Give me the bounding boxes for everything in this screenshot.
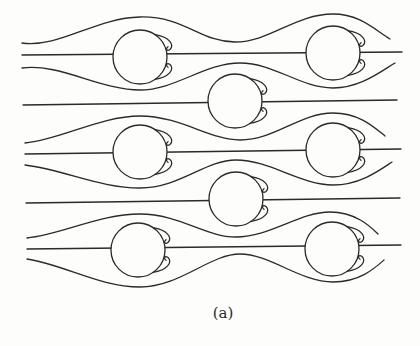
cylinder-c3 — [208, 74, 262, 128]
cylinder-c7 — [111, 223, 165, 277]
cylinder-c6 — [209, 172, 263, 226]
cylinder-c8 — [305, 222, 359, 276]
cylinder-c5 — [306, 123, 360, 177]
cylinder-c2 — [306, 26, 360, 80]
cylinder-c1 — [113, 30, 167, 84]
cylinder-array-diagram — [0, 0, 420, 346]
cylinder-c4 — [113, 125, 167, 179]
figure-caption: (a) — [0, 304, 420, 322]
